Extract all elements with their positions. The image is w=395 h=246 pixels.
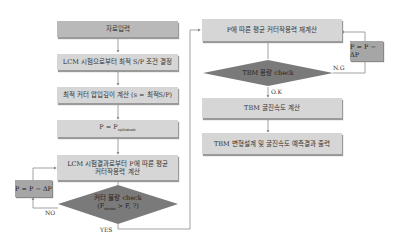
step-p-optimum: P = Poptimum xyxy=(57,120,178,137)
decision-tbm-check: TBM 용량 check xyxy=(225,66,311,80)
step-penetration-depth-label: 최적 커터 압입깊이 계산 (s = 최적S/P) xyxy=(63,91,172,99)
loop-box-right-label: P = P − ΔP xyxy=(350,43,383,59)
step-output-results: TBM 변형설계 및 굴진속도 예측결과 출력 xyxy=(202,133,342,154)
step-mean-cutter-force: LCM 시험결과로부터 P에 따른 평균 커터작용력 계산 xyxy=(57,155,178,180)
step-penetration-depth: 최적 커터 압입깊이 계산 (s = 최적S/P) xyxy=(57,87,178,103)
loop-box-left-label: P = P − ΔP xyxy=(15,185,52,193)
ok-label: O.K xyxy=(271,88,282,95)
decision-cutter-check-line1: 커터 물량 check xyxy=(94,194,141,202)
step-data-input: 자료입력 xyxy=(57,21,178,37)
loop-box-right: P = P − ΔP xyxy=(350,41,383,61)
step-optimal-sp: LCM 시험으로부터 최적 S/P 조건 결정 xyxy=(57,54,178,70)
yes-label: YES xyxy=(100,226,112,233)
step-optimal-sp-label: LCM 시험으로부터 최적 S/P 조건 결정 xyxy=(63,58,172,66)
step-mean-cutter-force-line1: LCM 시험결과로부터 P에 따른 평균 xyxy=(67,160,168,168)
ng-label: N.G xyxy=(333,64,345,71)
step-p-optimum-label: P = Poptimum xyxy=(99,123,135,134)
step-mean-cutter-force-line2: 커터작용력 계산 xyxy=(95,168,139,176)
step-output-results-label: TBM 변형설계 및 굴진속도 예측결과 출력 xyxy=(214,140,330,148)
decision-cutter-check: 커터 물량 check (Fmean > F, ?) xyxy=(78,193,158,215)
step-recalc-cutter-force: P에 따른 평균 커터작용력 재계산 xyxy=(202,19,342,41)
loop-box-left: P = P − ΔP xyxy=(15,180,52,197)
step-recalc-cutter-force-label: P에 따른 평균 커터작용력 재계산 xyxy=(227,26,318,34)
step-data-input-label: 자료입력 xyxy=(106,25,130,33)
decision-tbm-check-label: TBM 용량 check xyxy=(242,69,293,77)
step-advance-rate-label: TBM 굴진속도 계산 xyxy=(244,104,300,112)
step-advance-rate: TBM 굴진속도 계산 xyxy=(202,98,342,118)
decision-cutter-check-line2: (Fmean > F, ?) xyxy=(97,202,138,213)
no-label: NO xyxy=(45,209,55,216)
